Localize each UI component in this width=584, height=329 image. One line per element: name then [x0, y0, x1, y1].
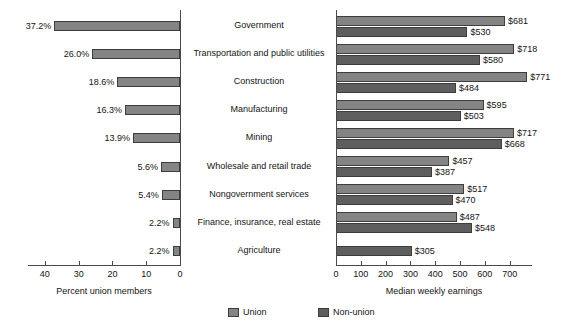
legend-label: Union	[243, 308, 267, 317]
bar-value-label: $718	[517, 45, 537, 54]
left-axis-line	[28, 265, 180, 266]
axis-tick	[361, 261, 362, 265]
bar-union-earnings	[336, 72, 527, 82]
bar-nonunion-earnings	[336, 223, 472, 233]
axis-tick	[510, 261, 511, 265]
category-label: Nongovernment services	[184, 190, 334, 199]
bar-value-label: 16.3%	[0, 106, 122, 115]
axis-tick-label: 700	[495, 270, 525, 279]
bar-percent-union	[133, 133, 180, 143]
axis-tick	[336, 261, 337, 265]
bar-percent-union	[117, 77, 180, 87]
bar-value-label: $548	[475, 224, 495, 233]
category-label: Mining	[184, 133, 334, 142]
left-zero-spine	[180, 10, 181, 266]
bar-value-label: 18.6%	[0, 78, 114, 87]
bar-value-label: 5.4%	[0, 191, 159, 200]
bar-value-label: $717	[517, 129, 537, 138]
bar-nonunion-earnings	[336, 139, 502, 149]
panel-median-weekly-earnings: $681$530$718$580$771$484$595$503$717$668…	[334, 0, 584, 329]
axis-tick	[180, 261, 181, 265]
bar-union-earnings	[336, 128, 514, 138]
bar-value-label: $580	[483, 56, 503, 65]
bar-union-earnings	[336, 100, 484, 110]
axis-tick-label: 10	[131, 270, 161, 279]
category-label: Wholesale and retail trade	[184, 162, 334, 171]
bar-value-label: $484	[459, 84, 479, 93]
axis-tick	[45, 261, 46, 265]
category-label: Agriculture	[184, 246, 334, 255]
axis-tick	[460, 261, 461, 265]
axis-tick	[386, 261, 387, 265]
bar-value-label: 13.9%	[0, 134, 130, 143]
axis-tick	[410, 261, 411, 265]
right-axis-line	[336, 265, 532, 266]
bar-value-label: $457	[452, 157, 472, 166]
axis-tick	[485, 261, 486, 265]
bar-percent-union	[162, 190, 180, 200]
bar-value-label: $530	[470, 28, 490, 37]
bar-union-earnings	[336, 156, 449, 166]
union-membership-earnings-figure: 37.2%26.0%18.6%16.3%13.9%5.6%5.4%2.2%2.2…	[0, 0, 584, 329]
bar-value-label: $771	[530, 73, 550, 82]
category-label: Government	[184, 21, 334, 30]
legend-swatch-nonunion	[318, 308, 329, 317]
bar-union-earnings	[336, 44, 514, 54]
bar-value-label: $681	[508, 17, 528, 26]
bar-nonunion-earnings	[336, 27, 467, 37]
right-zero-spine	[336, 10, 337, 266]
bar-union-earnings	[336, 184, 464, 194]
legend-swatch-union	[228, 308, 239, 317]
legend-item: Union	[228, 308, 267, 317]
bar-value-label: 5.6%	[0, 163, 158, 172]
category-label: Manufacturing	[184, 105, 334, 114]
right-axis-title: Median weekly earnings	[336, 287, 532, 296]
category-label: Transportation and public utilities	[184, 49, 334, 58]
bar-value-label: $503	[464, 112, 484, 121]
bar-nonunion-earnings	[336, 195, 453, 205]
axis-tick-label: 40	[30, 270, 60, 279]
bar-percent-union	[173, 246, 180, 256]
category-label: Finance, insurance, real estate	[184, 218, 334, 227]
axis-tick	[79, 261, 80, 265]
bar-percent-union	[92, 49, 180, 59]
bar-value-label: $470	[456, 196, 476, 205]
category-label-column: GovernmentTransportation and public util…	[184, 0, 334, 329]
bar-value-label: $305	[415, 247, 435, 256]
bar-value-label: 2.2%	[0, 219, 170, 228]
bar-value-label: 26.0%	[0, 50, 89, 59]
bar-value-label: 37.2%	[0, 22, 51, 31]
bar-value-label: $487	[460, 213, 480, 222]
axis-tick-label: 20	[97, 270, 127, 279]
legend-label: Non-union	[333, 308, 375, 317]
bar-value-label: $668	[505, 140, 525, 149]
bar-percent-union	[125, 105, 180, 115]
bar-union-earnings	[336, 16, 505, 26]
bar-nonunion-earnings	[336, 246, 412, 256]
bar-percent-union	[161, 162, 180, 172]
legend-item: Non-union	[318, 308, 375, 317]
axis-tick	[435, 261, 436, 265]
bar-union-earnings	[336, 212, 457, 222]
category-label: Construction	[184, 77, 334, 86]
panel-percent-union-members: 37.2%26.0%18.6%16.3%13.9%5.6%5.4%2.2%2.2…	[0, 0, 184, 329]
bar-nonunion-earnings	[336, 167, 432, 177]
bar-value-label: $595	[487, 101, 507, 110]
bar-nonunion-earnings	[336, 55, 480, 65]
axis-tick-label: 30	[64, 270, 94, 279]
bar-nonunion-earnings	[336, 111, 461, 121]
left-axis-title: Percent union members	[28, 287, 180, 296]
chart-legend: UnionNon-union	[0, 306, 584, 322]
bar-value-label: $517	[467, 185, 487, 194]
bar-value-label: $387	[435, 168, 455, 177]
bar-nonunion-earnings	[336, 83, 456, 93]
bar-percent-union	[173, 218, 180, 228]
axis-tick	[146, 261, 147, 265]
bar-percent-union	[54, 21, 180, 31]
bar-value-label: 2.2%	[0, 247, 170, 256]
axis-tick	[112, 261, 113, 265]
